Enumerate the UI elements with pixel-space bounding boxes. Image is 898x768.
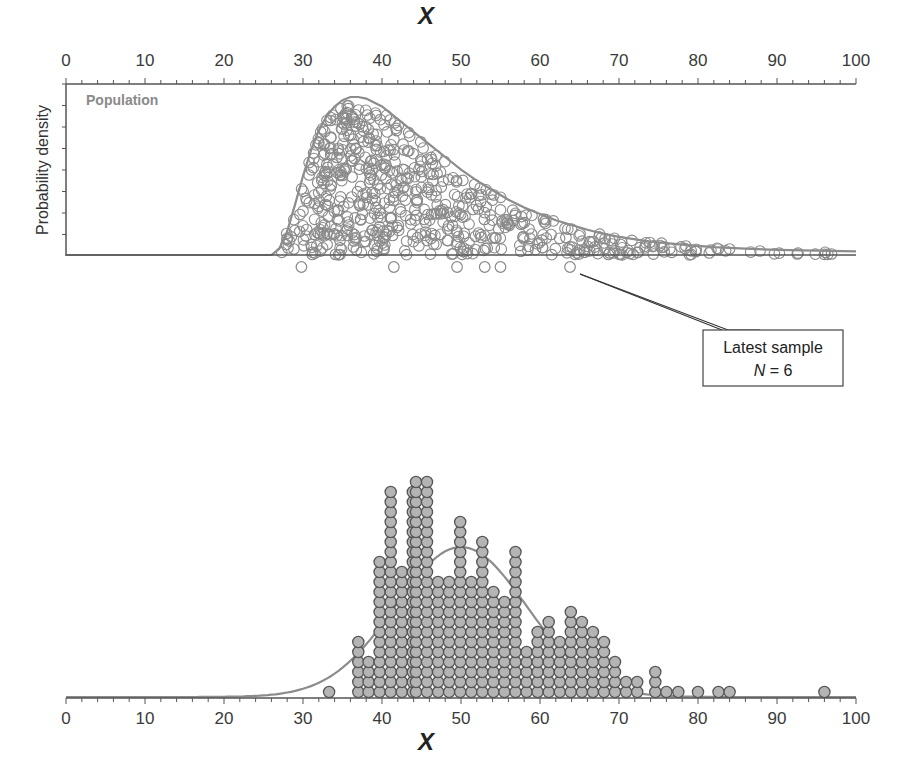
svg-text:100: 100 [842, 51, 870, 70]
population-points [277, 101, 837, 261]
population-panel: 0102030405060708090100 X Probability den… [34, 2, 870, 272]
sample-mean-dots [324, 476, 831, 697]
top-x-tick-labels: 0102030405060708090100 [61, 51, 870, 70]
svg-text:90: 90 [768, 709, 787, 728]
svg-text:80: 80 [689, 51, 708, 70]
callout-line-2: N = 6 [754, 362, 793, 379]
chart-figure: 0102030405060708090100 X Probability den… [0, 0, 898, 768]
bottom-x-axis-title: X [416, 728, 436, 755]
svg-text:10: 10 [136, 709, 155, 728]
bottom-x-tick-labels: 0102030405060708090100 [61, 709, 870, 728]
svg-text:90: 90 [768, 51, 787, 70]
top-x-axis [66, 78, 856, 84]
svg-text:60: 60 [531, 709, 550, 728]
svg-text:10: 10 [136, 51, 155, 70]
left-y-axis [62, 84, 66, 256]
callout-pointer [580, 274, 760, 330]
svg-text:50: 50 [452, 709, 471, 728]
callout-pointer-2 [580, 274, 722, 330]
svg-text:60: 60 [531, 51, 550, 70]
svg-text:100: 100 [842, 709, 870, 728]
svg-text:40: 40 [373, 709, 392, 728]
svg-text:20: 20 [215, 709, 234, 728]
svg-text:0: 0 [61, 51, 70, 70]
svg-text:30: 30 [294, 709, 313, 728]
svg-text:30: 30 [294, 51, 313, 70]
top-x-axis-title: X [416, 2, 436, 29]
latest-sample-callout: Latest sample N = 6 [580, 274, 843, 386]
sample-means-panel: 0102030405060708090100 X [61, 476, 870, 755]
population-label: Population [86, 92, 158, 108]
callout-line-1: Latest sample [723, 339, 823, 356]
svg-text:70: 70 [610, 709, 629, 728]
svg-text:80: 80 [689, 709, 708, 728]
bottom-x-axis [66, 698, 856, 704]
svg-text:70: 70 [610, 51, 629, 70]
latest-sample-points [296, 262, 575, 273]
svg-text:20: 20 [215, 51, 234, 70]
svg-text:40: 40 [373, 51, 392, 70]
y-axis-label: Probability density [34, 105, 51, 235]
svg-text:0: 0 [61, 709, 70, 728]
svg-text:50: 50 [452, 51, 471, 70]
